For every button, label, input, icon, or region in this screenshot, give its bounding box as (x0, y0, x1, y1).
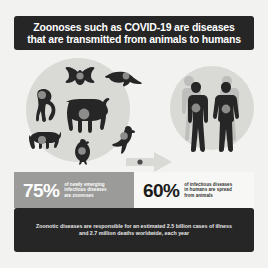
footer-line-2: and 2.7 million deaths worldwide, each y… (79, 230, 189, 237)
footer-line-1: Zoonotic diseases are responsible for an… (36, 223, 232, 230)
statistic-value-75: 75% (23, 181, 59, 200)
human-male-silhouette (182, 82, 210, 152)
cow-silhouette (60, 92, 112, 134)
bird-silhouette (108, 124, 136, 154)
human-female-silhouette (212, 82, 240, 152)
bat-silhouette (60, 66, 100, 88)
statistic-description-60-line-3: from animals (184, 193, 232, 199)
statistic-description-75-line-2: infectious diseases (64, 187, 106, 193)
chicken-silhouette (70, 138, 94, 164)
header-banner: Zoonoses such as COVID-19 are diseases t… (14, 16, 254, 50)
statistic-description-75-line-3: are zoonoses (64, 193, 106, 199)
statistic-value-60: 60% (143, 181, 179, 200)
header-line-1: Zoonoses such as COVID-19 are diseases (33, 21, 234, 33)
statistic-card-75: 75% of newly emerging infectious disease… (14, 172, 134, 208)
statistic-description-60-line-2: in humans are spread (184, 187, 232, 193)
statistics-row: 75% of newly emerging infectious disease… (14, 172, 254, 208)
statistic-description-75: of newly emerging infectious diseases ar… (64, 182, 106, 199)
illustration-stage (0, 52, 268, 170)
monkey-silhouette (32, 88, 62, 122)
statistic-card-60: 60% of infectious diseases in humans are… (134, 172, 254, 208)
pangolin-silhouette (104, 70, 142, 90)
pig-silhouette (26, 130, 60, 150)
footer-banner: Zoonotic diseases are responsible for an… (14, 208, 254, 252)
header-line-2: that are transmitted from animals to hum… (27, 33, 241, 45)
statistic-description-60: of infectious diseases in humans are spr… (184, 182, 232, 199)
transmission-arrow (126, 152, 172, 172)
zoonoses-infographic: Zoonoses such as COVID-19 are diseases t… (0, 0, 268, 268)
